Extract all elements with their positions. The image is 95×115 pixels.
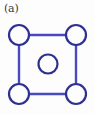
center-site-circle [39, 55, 58, 74]
lattice-diagram [0, 0, 95, 115]
node-group [9, 25, 86, 104]
corner-top-left-circle [9, 25, 29, 45]
figure-panel: (a) [0, 0, 95, 115]
corner-bottom-right-circle [66, 84, 86, 104]
corner-top-right-circle [66, 25, 86, 45]
corner-bottom-left-circle [9, 84, 29, 104]
